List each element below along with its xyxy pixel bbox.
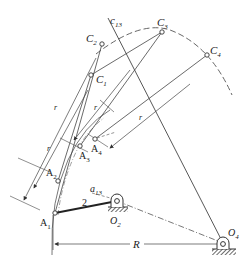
label-a1: A1 [40, 217, 51, 231]
label-o4: O4 [228, 227, 239, 241]
line-c1-a2 [58, 75, 91, 181]
label-link-2: 2 [82, 197, 87, 208]
dim-r-4 [110, 84, 190, 148]
line-c4-a4 [95, 55, 207, 139]
ground-line [117, 201, 223, 243]
label-c13: c13 [110, 14, 122, 29]
label-c1: C1 [96, 73, 107, 88]
label-a2: A2 [46, 167, 57, 181]
label-r-1: r [54, 103, 58, 112]
label-a4: A4 [91, 143, 102, 157]
label-r-4: r [139, 113, 143, 122]
dim-r-1 [24, 58, 96, 200]
pivot-o2 [108, 194, 128, 212]
linkage-diagram: C2 C1 C3 C4 c13 A2 A1 A3 A4 O2 O4 a13 2 … [0, 0, 247, 264]
pivot-o4 [212, 237, 236, 255]
label-c4: C4 [210, 44, 221, 59]
label-R: R [132, 238, 140, 250]
label-o2: O2 [110, 215, 121, 229]
line-c3-a3 [80, 32, 162, 146]
label-a13: a13 [90, 183, 103, 197]
line-c3-c1 [91, 32, 162, 75]
label-a3: A3 [79, 150, 90, 164]
label-c3: C3 [157, 16, 168, 31]
coupler-arc-c [96, 28, 232, 95]
label-c2: C2 [86, 32, 97, 47]
